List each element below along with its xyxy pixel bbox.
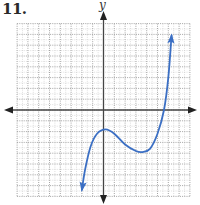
cubic-curve [80, 33, 175, 191]
graph [0, 0, 200, 205]
